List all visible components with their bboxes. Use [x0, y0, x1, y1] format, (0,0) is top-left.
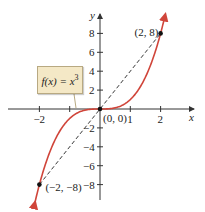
function-label-lhs: f(x) = x	[41, 75, 74, 87]
x-tick-label: −2	[33, 113, 45, 125]
callout-pointer	[74, 94, 76, 108]
point-label: (0, 0)	[103, 112, 127, 125]
cubic-function-graph: −212−8−6−4−22468 x y (2, 8)(0, 0)(−2, −8…	[0, 0, 205, 212]
x-tick-label: 1	[127, 113, 133, 125]
function-label-callout: f(x) = x3	[37, 66, 83, 94]
y-tick-label: −6	[83, 160, 95, 172]
y-tick-label: 4	[89, 65, 95, 77]
point-label: (2, 8)	[135, 26, 159, 39]
y-tick-label: 8	[89, 27, 95, 39]
y-tick-label: 2	[89, 84, 95, 96]
y-tick-label: −8	[83, 179, 95, 191]
point-marker	[37, 182, 42, 187]
x-tick-label: 2	[158, 113, 164, 125]
y-tick-label: −4	[83, 141, 95, 153]
point-marker	[98, 107, 103, 112]
x-axis-label: x	[188, 111, 194, 123]
function-label-exponent: 3	[75, 73, 79, 82]
point-marker	[158, 31, 163, 36]
y-tick-label: 6	[89, 46, 95, 58]
point-label: (−2, −8)	[45, 181, 82, 194]
y-axis-label: y	[89, 9, 95, 21]
